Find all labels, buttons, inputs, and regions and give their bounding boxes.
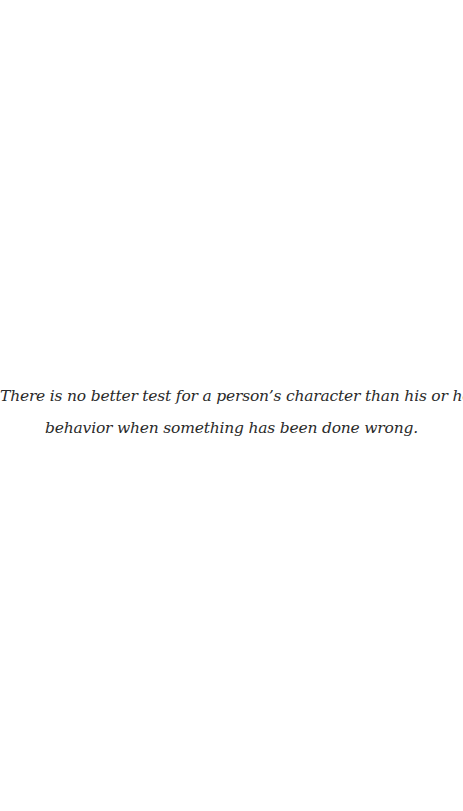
page: There is no better test for a person’s c… [0, 0, 463, 811]
quote-line-2: behavior when something has been done wr… [0, 412, 463, 444]
quote-block: There is no better test for a person’s c… [0, 380, 463, 444]
quote-line-1: There is no better test for a person’s c… [0, 380, 463, 412]
